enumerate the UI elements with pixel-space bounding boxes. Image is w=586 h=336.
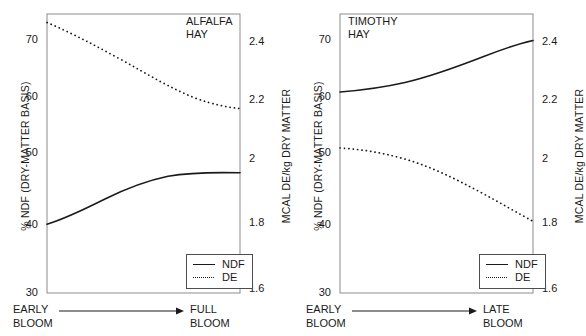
y-left-axis-title: % NDF (DRY-MATTER BASIS) [19,71,31,241]
y-left-tick-70: 70 [10,34,38,45]
chart-panel-alfalfa: 70 60 50 40 30 2.4 2.2 2 1.8 1.6 % NDF (… [0,0,293,336]
legend-row-de[interactable]: DE [193,271,245,284]
legend-swatch-solid-line-icon [486,259,508,270]
x-start-label-line2: BLOOM [13,317,53,330]
chart-title-line2: HAY [348,28,370,42]
legend-label-de: DE [515,272,530,283]
legend-row-ndf[interactable]: NDF [486,258,538,271]
chart-panel-timothy: 70 60 50 40 30 2.4 2.2 2 1.8 1.6 % NDF (… [293,0,586,336]
x-axis-arrow-head [176,307,184,314]
series-line-ndf [47,173,240,225]
legend: NDF DE [479,254,546,289]
x-start-label-line1: EARLY [13,303,48,316]
legend-swatch-solid-line-icon [193,259,215,270]
legend-swatch-dotted-line-icon [486,272,508,283]
x-start-label-line2: BLOOM [306,317,346,330]
y-right-tick-2-2: 2.2 [542,94,557,105]
y-left-tick-30: 30 [303,287,331,298]
x-start-label-line1: EARLY [306,303,341,316]
series-line-ndf [340,41,533,93]
x-end-label-line1: LATE [483,303,510,316]
chart-title-line1: TIMOTHY [348,15,398,29]
y-left-axis-title: % NDF (DRY-MATTER BASIS) [312,71,324,241]
y-right-tick-2-2: 2.2 [249,94,264,105]
plot-frame [340,14,533,293]
chart-title-line2: HAY [186,28,208,42]
figure-root: 70 60 50 40 30 2.4 2.2 2 1.8 1.6 % NDF (… [0,0,586,336]
x-end-label-line2: BLOOM [483,317,523,330]
legend: NDF DE [186,254,253,289]
y-right-tick-2-4: 2.4 [542,36,557,47]
y-right-axis-title: MCAL DE/kg DRY MATTER [280,64,292,249]
legend-label-ndf: NDF [515,259,538,270]
y-right-tick-2-0: 2 [542,153,548,164]
plot-frame [47,14,240,293]
legend-label-de: DE [222,272,237,283]
y-right-axis-title: MCAL DE/kg DRY MATTER [573,64,585,249]
legend-label-ndf: NDF [222,259,245,270]
series-line-de [340,148,533,221]
x-axis-arrow-head [469,307,477,314]
chart-title-line1: ALFALFA [186,15,232,29]
y-right-tick-1-8: 1.8 [542,217,557,228]
y-left-tick-70: 70 [303,34,331,45]
legend-row-ndf[interactable]: NDF [193,258,245,271]
x-end-label-line1: FULL [190,303,217,316]
series-line-de [47,23,240,109]
x-end-label-line2: BLOOM [190,317,230,330]
legend-row-de[interactable]: DE [486,271,538,284]
y-left-tick-30: 30 [10,287,38,298]
y-right-tick-2-4: 2.4 [249,36,264,47]
y-right-tick-2-0: 2 [249,153,255,164]
y-right-tick-1-8: 1.8 [249,217,264,228]
legend-swatch-dotted-line-icon [193,272,215,283]
